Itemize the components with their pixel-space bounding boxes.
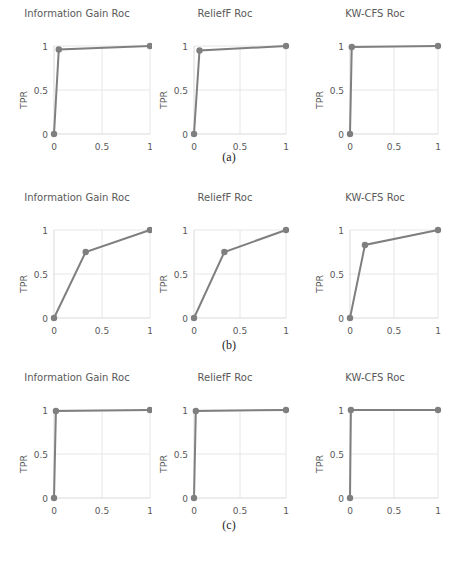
- roc-panel-b-3: KW-CFS Roc000.50.511FPRTPR: [300, 192, 450, 342]
- svg-text:1: 1: [182, 42, 188, 52]
- svg-text:0.5: 0.5: [174, 86, 188, 96]
- svg-text:0.5: 0.5: [95, 506, 109, 516]
- roc-panel-c-1: Information Gain Roc000.50.511FPRTPR: [2, 372, 152, 522]
- svg-text:0.5: 0.5: [95, 326, 109, 336]
- svg-text:1: 1: [338, 226, 344, 236]
- svg-text:0.5: 0.5: [330, 86, 344, 96]
- svg-text:1: 1: [338, 406, 344, 416]
- svg-text:0.5: 0.5: [387, 506, 401, 516]
- svg-text:0.5: 0.5: [34, 270, 48, 280]
- svg-text:0.5: 0.5: [233, 326, 247, 336]
- row-label-c: (c): [0, 518, 458, 533]
- svg-text:1: 1: [435, 506, 441, 516]
- roc-panel-a-3: KW-CFS Roc000.50.511FPRTPR: [300, 8, 450, 158]
- roc-panel-b-1: Information Gain Roc000.50.511FPRTPR: [2, 192, 152, 342]
- svg-text:1: 1: [435, 326, 441, 336]
- svg-text:0.5: 0.5: [387, 326, 401, 336]
- svg-text:0: 0: [182, 314, 188, 324]
- svg-text:0.5: 0.5: [330, 450, 344, 460]
- svg-text:0.5: 0.5: [34, 450, 48, 460]
- svg-text:1: 1: [182, 226, 188, 236]
- svg-text:1: 1: [42, 42, 48, 52]
- svg-text:0.5: 0.5: [233, 506, 247, 516]
- roc-panel-c-2: ReliefF Roc000.50.511FPRTPR: [150, 372, 300, 522]
- roc-panel-a-2: ReliefF Roc000.50.511FPRTPR: [150, 8, 300, 158]
- svg-text:TPR: TPR: [18, 91, 29, 111]
- svg-text:0: 0: [338, 130, 344, 140]
- svg-text:0: 0: [51, 506, 57, 516]
- svg-text:TPR: TPR: [158, 455, 169, 475]
- svg-text:1: 1: [42, 406, 48, 416]
- svg-text:TPR: TPR: [158, 91, 169, 111]
- svg-text:0: 0: [338, 494, 344, 504]
- svg-text:TPR: TPR: [158, 275, 169, 295]
- svg-text:0: 0: [338, 314, 344, 324]
- svg-text:0: 0: [42, 130, 48, 140]
- svg-text:0: 0: [42, 494, 48, 504]
- svg-text:1: 1: [338, 42, 344, 52]
- svg-text:0: 0: [347, 326, 353, 336]
- svg-text:TPR: TPR: [314, 275, 325, 295]
- svg-text:1: 1: [283, 326, 289, 336]
- svg-text:0: 0: [191, 506, 197, 516]
- svg-text:0.5: 0.5: [174, 450, 188, 460]
- svg-text:TPR: TPR: [314, 91, 325, 111]
- svg-text:0: 0: [182, 494, 188, 504]
- svg-text:1: 1: [42, 226, 48, 236]
- svg-text:0.5: 0.5: [34, 86, 48, 96]
- svg-text:0: 0: [182, 130, 188, 140]
- svg-text:1: 1: [283, 506, 289, 516]
- svg-text:0.5: 0.5: [330, 270, 344, 280]
- roc-panel-b-2: ReliefF Roc000.50.511FPRTPR: [150, 192, 300, 342]
- svg-text:0: 0: [51, 326, 57, 336]
- svg-text:TPR: TPR: [18, 455, 29, 475]
- svg-text:TPR: TPR: [18, 275, 29, 295]
- svg-text:0: 0: [191, 326, 197, 336]
- row-label-a: (a): [0, 150, 458, 165]
- svg-text:0.5: 0.5: [174, 270, 188, 280]
- roc-panel-a-1: Information Gain Roc000.50.511FPRTPR: [2, 8, 152, 158]
- svg-text:TPR: TPR: [314, 455, 325, 475]
- svg-text:0: 0: [347, 506, 353, 516]
- figure-caption: [35, 556, 435, 564]
- row-label-b: (b): [0, 338, 458, 353]
- roc-panel-c-3: KW-CFS Roc000.50.511FPRTPR: [300, 372, 450, 522]
- svg-text:0: 0: [42, 314, 48, 324]
- svg-text:1: 1: [182, 406, 188, 416]
